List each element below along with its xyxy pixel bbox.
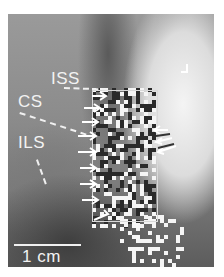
label-cs: CS [18, 93, 43, 110]
label-iss: ISS [51, 70, 80, 87]
corner-marker-icon [181, 64, 187, 72]
label-ils: ILS [18, 134, 45, 151]
arrow-icon-group-left [78, 92, 108, 220]
scale-bar-label: 1 cm [22, 248, 61, 265]
arrow-icon-group-right [154, 126, 176, 154]
scale-bar [14, 244, 81, 246]
